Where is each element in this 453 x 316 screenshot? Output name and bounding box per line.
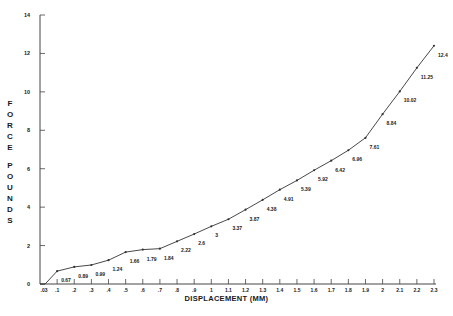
force-displacement-chart: 02468101214 .03.1.2.3.4.5.6.7.8.911.11.2…	[0, 0, 453, 316]
x-tick-label: 2.2	[413, 287, 420, 293]
data-point	[347, 149, 349, 151]
x-tick-label: 1.5	[293, 287, 300, 293]
x-tick-label: 1.8	[345, 287, 352, 293]
y-tick-label: 8	[27, 127, 30, 133]
data-point	[399, 90, 401, 92]
x-tick-label: 1.1	[225, 287, 232, 293]
data-points	[56, 45, 435, 273]
data-point	[210, 225, 212, 227]
y-tick-label: 4	[27, 204, 31, 210]
data-point	[56, 270, 58, 272]
x-tick-label: 1.2	[242, 287, 249, 293]
data-point	[364, 137, 366, 139]
data-point	[382, 113, 384, 115]
data-point	[227, 218, 229, 220]
data-label: 1.24	[113, 266, 123, 272]
data-label: 0.89	[78, 273, 88, 279]
data-label: 8.84	[387, 120, 397, 126]
data-point	[262, 199, 264, 201]
x-tick-label: 1.9	[362, 287, 369, 293]
data-label: 1.79	[147, 256, 157, 262]
data-label: 1.84	[164, 255, 174, 261]
x-tick-label: .1	[55, 287, 59, 293]
data-label: 11.25	[421, 74, 433, 80]
data-label: 3	[215, 232, 218, 238]
x-tick-label: 2.1	[396, 287, 403, 293]
x-axis-ticks: .03.1.2.3.4.5.6.7.8.911.11.21.31.41.51.6…	[41, 279, 438, 293]
data-point	[73, 266, 75, 268]
data-label: 5.92	[318, 176, 328, 182]
data-point	[279, 189, 281, 191]
x-tick-label: 1.6	[311, 287, 318, 293]
data-point	[416, 67, 418, 69]
data-point	[193, 233, 195, 235]
data-label: 3.87	[250, 216, 260, 222]
data-point	[313, 169, 315, 171]
data-point	[244, 209, 246, 211]
data-label: 0.67	[61, 277, 71, 283]
x-tick-label: .3	[89, 287, 93, 293]
data-point	[176, 240, 178, 242]
data-point	[125, 251, 127, 253]
data-label: 5.39	[301, 186, 311, 192]
data-point	[90, 264, 92, 266]
x-tick-label: 1.4	[276, 287, 283, 293]
data-label: 4.38	[267, 206, 277, 212]
data-label: 6.96	[352, 156, 362, 162]
y-tick-label: 10	[24, 89, 30, 95]
data-point	[142, 249, 144, 251]
data-point	[107, 259, 109, 261]
data-label: 6.42	[335, 167, 345, 173]
data-label: 2.22	[181, 247, 191, 253]
data-line	[40, 46, 434, 284]
y-axis-title-force: FORCE	[4, 98, 16, 153]
x-tick-label: 2.3	[431, 287, 438, 293]
y-tick-label: 14	[24, 12, 31, 18]
y-axis-ticks: 02468101214	[24, 12, 45, 287]
data-label: 10.02	[404, 97, 417, 103]
data-point	[296, 179, 298, 181]
x-tick-label: 2	[381, 287, 384, 293]
data-point	[330, 160, 332, 162]
x-tick-label: .5	[124, 287, 128, 293]
x-tick-label: .8	[175, 287, 179, 293]
data-label: 4.91	[284, 196, 294, 202]
x-tick-label: .6	[141, 287, 145, 293]
data-point	[433, 45, 435, 47]
data-label: 7.61	[369, 144, 379, 150]
y-tick-label: 0	[27, 281, 30, 287]
data-label: 12.4	[438, 52, 448, 58]
x-tick-label: .7	[158, 287, 162, 293]
data-label: 0.99	[95, 271, 105, 277]
x-tick-label: .03	[41, 287, 48, 293]
y-tick-label: 6	[27, 166, 30, 172]
data-label: 3.37	[232, 225, 242, 231]
y-axis-title-pounds: POUNDS	[4, 160, 16, 226]
data-label: 2.6	[198, 240, 205, 246]
data-point	[159, 248, 161, 250]
x-tick-label: .9	[192, 287, 196, 293]
x-tick-label: 1.3	[259, 287, 266, 293]
x-tick-label: .2	[72, 287, 76, 293]
data-labels: 0.670.890.991.241.661.791.842.222.633.37…	[61, 52, 448, 283]
x-tick-label: 1	[210, 287, 213, 293]
x-tick-label: 1.7	[328, 287, 335, 293]
x-axis-title: DISPLACEMENT (MM)	[0, 294, 453, 303]
x-tick-label: .4	[106, 287, 110, 293]
data-label: 1.66	[130, 258, 140, 264]
y-tick-label: 2	[27, 243, 30, 249]
y-tick-label: 12	[24, 50, 30, 56]
